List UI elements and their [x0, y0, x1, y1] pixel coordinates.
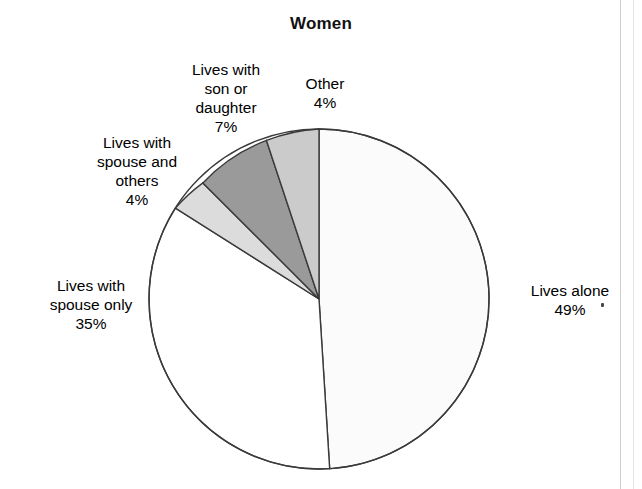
pie-label-spouse-only: Lives with spouse only 35%: [22, 276, 160, 333]
chart-canvas: Women Lives alone 49% Lives with spouse …: [0, 0, 642, 489]
pie-slice-lives-alone[interactable]: [319, 129, 489, 469]
pie-chart: [148, 128, 490, 470]
page-edge-line: [620, 0, 621, 489]
pie-label-lives-alone: Lives alone 49%: [508, 281, 632, 319]
page-edge-line-secondary: [633, 0, 634, 489]
chart-title: Women: [0, 14, 642, 34]
pie-label-other: Other 4%: [282, 74, 368, 112]
scan-speck: [601, 303, 604, 307]
pie-label-spouse-and-others: Lives with spouse and others 4%: [76, 133, 198, 209]
pie-label-son-or-daughter: Lives with son or daughter 7%: [168, 60, 284, 136]
pie-svg: [148, 128, 490, 470]
